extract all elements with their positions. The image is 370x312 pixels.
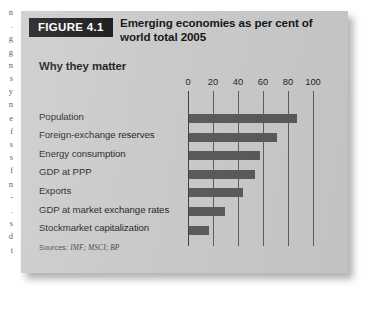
bar: [189, 170, 255, 179]
edge-text-line: .: [0, 204, 14, 217]
figure-card: FIGURE 4.1 Emerging economies as per cen…: [21, 11, 348, 273]
bar: [189, 226, 209, 235]
edge-text-line: e: [0, 112, 14, 125]
edge-text-line: f: [0, 164, 14, 177]
edge-text-line: s: [0, 72, 14, 85]
edge-text-line: s: [0, 217, 14, 230]
bar: [189, 188, 243, 197]
bar: [189, 151, 260, 160]
x-axis-tick-label: 60: [258, 77, 268, 87]
x-axis-tick-label: 0: [185, 77, 190, 87]
x-axis-tick-label: 80: [283, 77, 293, 87]
category-label: GDP at PPP: [39, 166, 92, 177]
adjacent-column-text-fragment: n.ggnsynefssfn-.sdt: [0, 0, 14, 312]
edge-text-line: g: [0, 32, 14, 45]
bar: [189, 133, 277, 142]
gridline: [313, 91, 314, 246]
edge-text-line: t: [0, 244, 14, 257]
edge-text-line: s: [0, 138, 14, 151]
edge-text-line: y: [0, 85, 14, 98]
bar-chart-plot: 020406080100PopulationForeign-exchange r…: [21, 11, 348, 273]
sources-label: Sources:: [39, 243, 68, 252]
edge-text-line: d: [0, 230, 14, 243]
edge-text-line: n: [0, 178, 14, 191]
category-label: Population: [39, 111, 84, 122]
bar: [189, 114, 297, 123]
category-label: GDP at market exchange rates: [39, 204, 169, 215]
category-label: Exports: [39, 185, 71, 196]
x-axis-tick-label: 40: [233, 77, 243, 87]
edge-text-line: n: [0, 6, 14, 19]
edge-text-line: s: [0, 151, 14, 164]
sources-value: IMF; MSCI; BP: [70, 243, 119, 252]
category-label: Stockmarket capitalization: [39, 222, 149, 233]
chart-sources: Sources: IMF; MSCI; BP: [39, 243, 119, 252]
bar: [189, 207, 225, 216]
edge-text-line: n: [0, 98, 14, 111]
x-axis-tick-label: 100: [305, 77, 321, 87]
edge-text-line: n: [0, 59, 14, 72]
edge-text-line: g: [0, 46, 14, 59]
edge-text-line: -: [0, 191, 14, 204]
x-axis-tick-label: 20: [208, 77, 218, 87]
category-label: Energy consumption: [39, 148, 126, 159]
edge-text-line: f: [0, 125, 14, 138]
scanned-page: n.ggnsynefssfn-.sdt FIGURE 4.1 Emerging …: [0, 0, 370, 312]
category-label: Foreign-exchange reserves: [39, 129, 155, 140]
edge-text-line: .: [0, 19, 14, 32]
